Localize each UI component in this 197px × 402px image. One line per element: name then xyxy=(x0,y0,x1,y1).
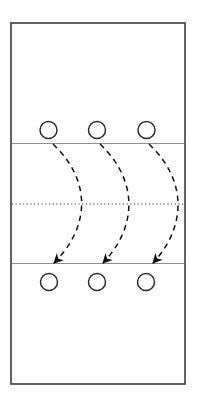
player-top-2 xyxy=(89,122,106,139)
player-top-1 xyxy=(40,122,57,139)
player-bottom-3 xyxy=(138,274,155,291)
diagram-page xyxy=(0,0,197,402)
player-top-3 xyxy=(138,122,155,139)
player-bottom-1 xyxy=(41,274,58,291)
diagram-svg xyxy=(0,0,197,402)
player-bottom-2 xyxy=(89,274,106,291)
court-movement-diagram xyxy=(0,0,197,402)
